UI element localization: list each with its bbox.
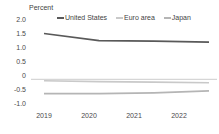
legend-label-united-states: United States <box>65 14 107 22</box>
legend-item-japan[interactable]: Japan <box>164 14 191 22</box>
y-tick-label: 1.5 <box>0 30 26 37</box>
x-tick-label: 2021 <box>118 112 150 119</box>
plot-area <box>31 22 217 108</box>
legend-label-euro-area: Euro area <box>124 14 155 22</box>
y-tick-label: 2.0 <box>0 16 26 23</box>
series-line-united-states <box>44 33 209 42</box>
y-tick-label: 0 <box>0 72 26 79</box>
legend-swatch-united-states <box>57 17 64 19</box>
y-tick-label: -1.0 <box>0 100 26 107</box>
y-tick-label: -0.5 <box>0 86 26 93</box>
legend-label-japan: Japan <box>172 14 191 22</box>
x-tick-label: 2020 <box>73 112 105 119</box>
y-tick-label: 0.5 <box>0 58 26 65</box>
legend-item-united-states[interactable]: United States <box>57 14 107 22</box>
x-tick-label: 2022 <box>163 112 195 119</box>
y-tick-label: 1.0 <box>0 44 26 51</box>
y-axis-title: Percent <box>29 4 53 11</box>
legend-swatch-euro-area <box>116 17 123 19</box>
series-line-japan <box>44 91 209 94</box>
x-tick-label: 2019 <box>28 112 60 119</box>
legend-item-euro-area[interactable]: Euro area <box>116 14 155 22</box>
series-line-euro-area <box>44 81 209 83</box>
plot-svg <box>31 22 217 108</box>
chart-legend: United States Euro area Japan <box>57 14 191 22</box>
legend-swatch-japan <box>164 17 171 19</box>
line-chart: Percent United States Euro area Japan 2.… <box>0 0 219 134</box>
